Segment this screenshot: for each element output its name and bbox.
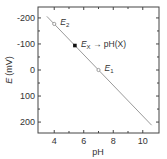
data-points: E2EX → pH(X)E1	[53, 17, 127, 74]
y-axis-label-symbol: E	[4, 77, 14, 84]
y-tick-label: -200	[17, 13, 35, 23]
point-label: E2	[60, 17, 70, 28]
y-tick-label: 200	[20, 117, 35, 127]
x-axis-label: pH	[92, 147, 104, 157]
y-tick-label: 0	[30, 65, 35, 75]
y-axis-label: E(mV)	[4, 56, 14, 84]
y-tick-label: -100	[17, 39, 35, 49]
y-axis-label-unit: (mV)	[4, 56, 14, 76]
marker-circle	[97, 68, 100, 71]
y-tick-label: 100	[20, 91, 35, 101]
x-tick-label: 10	[138, 136, 148, 146]
marker-square	[73, 44, 77, 48]
marker-circle	[53, 22, 56, 25]
point-label: E1	[105, 63, 115, 74]
x-tick-label: 8	[111, 136, 116, 146]
x-tick-label: 6	[81, 136, 86, 146]
point-label: EX → pH(X)	[81, 39, 126, 50]
x-tick-label: 4	[52, 136, 57, 146]
chart: 46810-200-1000100200 E2EX → pH(X)E1 pH E…	[0, 0, 167, 159]
